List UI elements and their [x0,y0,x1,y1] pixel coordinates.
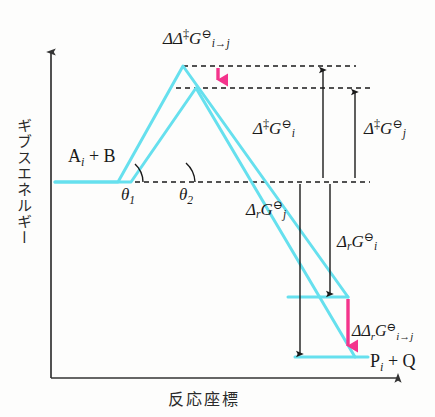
act-g-i-standard-state: ⊖ [281,117,291,131]
act-g-i-label: Δ‡G⊖i [253,118,295,140]
dd-act-g-g: G [189,29,201,48]
rxn-g-j-label: ΔrG⊖j [246,199,286,221]
dd-act-g-subscript: i→j [212,37,230,50]
dd-rxn-g-delta: ΔΔ [352,322,371,339]
reaction-coordinate-diagram: ギブスエネルギー 反応座標 ΔΔ‡G⊖i→j Δ‡G⊖i Δ‡G⊖j ΔrG⊖j… [0,0,435,417]
dd-act-g-label: ΔΔ‡G⊖i→j [163,28,230,50]
rxn-g-j-g: G [260,200,272,219]
theta2-label: θ2 [179,186,193,206]
dd-rxn-g-subscript: i→j [396,330,413,342]
dd-rxn-g-g: G [375,322,387,339]
act-g-j-label: Δ‡G⊖j [364,118,406,140]
act-g-j-standard-state: ⊖ [392,117,402,131]
product-species: P [370,351,380,371]
act-g-j-subscript: j [403,127,406,140]
rxn-g-i-standard-state: ⊖ [364,230,374,244]
act-g-i-delta: Δ [253,119,263,138]
dd-act-g-standard-state: ⊖ [201,27,211,41]
theta1-label: θ1 [121,186,135,206]
theta1-subscript: 1 [129,194,135,207]
act-g-i-g: G [269,119,281,138]
axis-group [51,52,398,378]
y-axis-label: ギブスエネルギー [8,118,34,246]
product-label: Pi + Q [370,352,416,373]
rxn-g-j-delta: Δ [246,200,256,219]
theta2-subscript: 2 [187,194,193,207]
reference-lines [117,66,372,182]
rxn-g-i-label: ΔrG⊖i [337,231,377,253]
dd-act-g-delta: ΔΔ [163,29,183,48]
x-axis-label: 反応座標 [168,386,240,410]
act-g-j-delta: Δ [364,119,374,138]
act-g-i-subscript: i [292,127,295,140]
dd-rxn-g-label: ΔΔrG⊖i→j [352,322,413,342]
rxn-g-i-g: G [351,232,363,251]
reactant-species: A [68,146,81,166]
rxn-g-j-subscript: j [283,208,286,221]
rxn-g-j-standard-state: ⊖ [273,198,283,212]
reactant-coreactant: + B [84,146,115,166]
dd-rxn-g-standard-state: ⊖ [387,321,397,333]
product-coproduct: + Q [383,351,415,371]
rxn-g-i-subscript: i [374,240,377,253]
rxn-g-i-delta: Δ [337,232,347,251]
theta2-arc [186,163,195,182]
pathway-j-curve [55,88,355,357]
act-g-j-g: G [380,119,392,138]
reactant-label: Ai + B [68,147,116,168]
